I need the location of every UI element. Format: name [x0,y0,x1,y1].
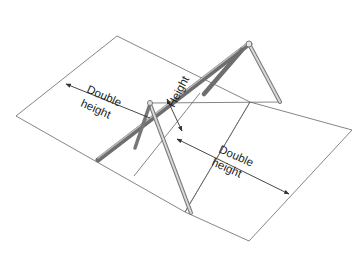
right-clearance-zone [185,102,352,241]
apex-joint [246,41,252,47]
front-joint [148,101,153,106]
ground-zones [16,36,352,241]
left-clearance-zone [16,36,250,212]
front-left-leg [135,104,150,148]
swing-clearance-diagram: Double height Height Double height [0,0,359,253]
swing-frame [98,41,280,213]
labels: Double height Height Double height [79,73,255,180]
